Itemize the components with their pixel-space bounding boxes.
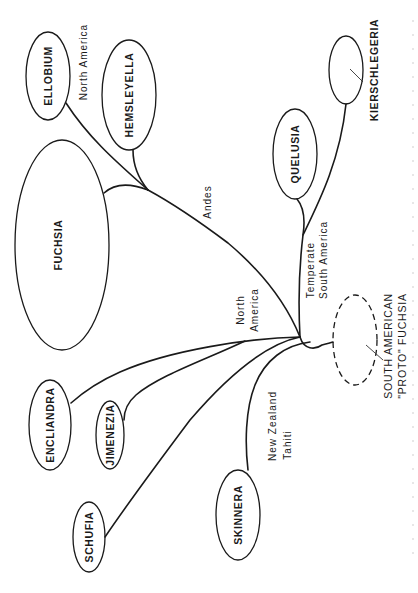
node-jimenezia: JIMENEZIA [96, 401, 124, 469]
label-america-mid: America [249, 288, 260, 332]
branches [66, 103, 346, 537]
label-proto-line1: SOUTH AMERICAN [382, 293, 394, 399]
label-north-america-top: North America [78, 24, 89, 100]
label-temperate-line1: Temperate [305, 242, 316, 298]
label-schufia: SCHUFIA [83, 512, 95, 563]
node-ellobium: ELLOBIUM [26, 32, 70, 120]
node-hemsleyella: HEMSLEYELLA [102, 40, 156, 150]
label-proto-line2: "PROTO" FUCHSIA [396, 293, 408, 399]
kierschlegeria-pointer [350, 69, 363, 82]
label-skinnera: SKINNERA [232, 485, 244, 545]
label-andes: Andes [202, 185, 213, 218]
label-new-zealand: New Zealand [267, 391, 278, 461]
node-encliandra: ENCLIANDRA [29, 380, 71, 470]
node-kierschlegeria: KIERSCHLEGERIA [329, 19, 380, 121]
label-temperate-line2: South America [318, 221, 329, 299]
label-jimenezia: JIMENEZIA [104, 404, 116, 465]
node-quelusia: QUELUSIA [273, 109, 317, 199]
label-hemsleyella: HEMSLEYELLA [123, 53, 135, 138]
label-ellobium: ELLOBIUM [42, 46, 54, 106]
region-labels: North America Andes Temperate South Amer… [78, 24, 329, 461]
fuchsia-phylogeny-diagram: ELLOBIUM HEMSLEYELLA FUCHSIA QUELUSIA KI… [0, 0, 418, 593]
branch-fuchsia [104, 185, 148, 193]
branch-kierschlegeria [303, 104, 346, 235]
proto-pointer [366, 345, 383, 360]
node-fuchsia: FUCHSIA [15, 140, 109, 350]
branch-encliandra [71, 337, 300, 403]
label-quelusia: QUELUSIA [289, 124, 301, 183]
node-schufia: SCHUFIA [73, 502, 105, 572]
label-encliandra: ENCLIANDRA [44, 387, 56, 462]
label-north-mid: North [235, 295, 246, 324]
branch-quelusia [297, 199, 304, 337]
label-tahiti: Tahiti [282, 430, 293, 459]
node-skinnera: SKINNERA [216, 470, 260, 560]
branch-andes [148, 190, 300, 337]
branch-skinnera [246, 342, 310, 470]
node-proto-fuchsia: SOUTH AMERICAN "PROTO" FUCHSIA [333, 293, 408, 399]
label-kierschlegeria: KIERSCHLEGERIA [368, 19, 380, 121]
label-fuchsia: FUCHSIA [52, 220, 64, 271]
